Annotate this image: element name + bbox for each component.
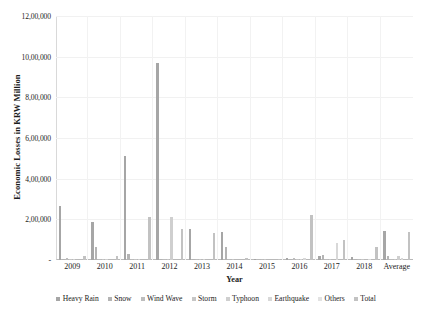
legend-label: Heavy Rain — [63, 294, 99, 303]
legend-label: Others — [325, 294, 345, 303]
bar — [102, 259, 104, 260]
bar-group — [251, 16, 283, 260]
bar — [69, 259, 71, 260]
bar — [228, 259, 230, 260]
bar-group — [218, 16, 250, 260]
bar — [300, 259, 302, 260]
bar — [397, 256, 399, 260]
bar — [289, 259, 291, 260]
y-axis-tick-label: 12,00,000 — [22, 12, 51, 21]
legend-swatch-icon — [226, 297, 230, 301]
legend-item-wind-wave[interactable]: Wind Wave — [141, 294, 183, 303]
bar — [98, 259, 100, 260]
bar — [354, 259, 356, 260]
legend-item-earthquake[interactable]: Earthquake — [268, 294, 309, 303]
bar — [351, 257, 353, 260]
bar-group — [186, 16, 218, 260]
bar — [148, 217, 150, 260]
legend-swatch-icon — [318, 297, 322, 301]
bar — [221, 232, 223, 260]
legend-item-storm[interactable]: Storm — [192, 294, 217, 303]
bar — [134, 259, 136, 260]
bar — [160, 259, 162, 260]
bar — [73, 259, 75, 260]
legend-swatch-icon — [108, 297, 112, 301]
y-axis-tick-label: 8,00,000 — [25, 93, 51, 102]
bar — [336, 243, 338, 260]
bar — [343, 240, 345, 260]
bar — [278, 259, 280, 260]
bar-groups — [56, 16, 413, 260]
bar — [213, 233, 215, 260]
legend-item-heavy-rain[interactable]: Heavy Rain — [56, 294, 99, 303]
bar — [170, 217, 172, 260]
bar — [325, 259, 327, 260]
bar — [131, 259, 133, 260]
bar — [310, 215, 312, 260]
bar-group — [283, 16, 315, 260]
bar — [387, 256, 389, 260]
legend-item-total[interactable]: Total — [354, 294, 376, 303]
bar — [167, 259, 169, 260]
legend-label: Earthquake — [274, 294, 309, 303]
bar — [225, 247, 227, 260]
bar — [261, 259, 263, 260]
chart-legend: Heavy RainSnowWind WaveStormTyphoonEarth… — [30, 294, 402, 303]
bar-group — [56, 16, 88, 260]
y-axis-tick-label: 10,00,000 — [22, 52, 51, 61]
bar — [383, 231, 385, 260]
bar — [303, 258, 305, 260]
y-axis-tick-label: - — [48, 256, 51, 265]
y-axis-title: Economic Losses in KRW Million — [12, 57, 22, 217]
bar — [66, 258, 68, 260]
bar-group — [153, 16, 185, 260]
x-axis-tick-label: Average — [381, 262, 413, 276]
bar — [95, 247, 97, 260]
legend-label: Typhoon — [232, 294, 259, 303]
bar — [127, 254, 129, 260]
bar — [163, 259, 165, 260]
x-axis-tick-label: 2018 — [348, 262, 380, 276]
bar — [245, 258, 247, 260]
bar — [156, 63, 158, 260]
bar — [203, 259, 205, 260]
bar — [181, 229, 183, 260]
bar — [59, 206, 61, 260]
bar — [105, 259, 107, 260]
bar — [116, 256, 118, 260]
bar-group — [88, 16, 120, 260]
bar — [199, 259, 201, 260]
bar-group — [121, 16, 153, 260]
x-axis-tick-label: 2010 — [88, 262, 120, 276]
bar — [368, 259, 370, 260]
bar — [91, 222, 93, 260]
legend-item-others[interactable]: Others — [318, 294, 345, 303]
legend-label: Wind Wave — [147, 294, 182, 303]
bar — [232, 259, 234, 260]
economic-losses-bar-chart: Economic Losses in KRW Million 12,00,000… — [0, 0, 423, 316]
bar — [408, 232, 410, 260]
y-axis-tick-label: 2,00,000 — [25, 215, 51, 224]
y-axis-tick-label: 6,00,000 — [25, 134, 51, 143]
plot-area: 12,00,00010,00,0008,00,0006,00,0004,00,0… — [56, 16, 413, 260]
legend-swatch-icon — [354, 297, 358, 301]
x-axis-tick-label: 2017 — [316, 262, 348, 276]
bar-group — [348, 16, 380, 260]
bar — [124, 156, 126, 260]
legend-item-snow[interactable]: Snow — [108, 294, 132, 303]
legend-swatch-icon — [56, 297, 60, 301]
x-axis-tick-label: 2016 — [283, 262, 315, 276]
legend-item-typhoon[interactable]: Typhoon — [226, 294, 259, 303]
bar — [296, 259, 298, 260]
bar — [293, 258, 295, 260]
y-axis-tick-label: 4,00,000 — [25, 174, 51, 183]
x-axis-tick-label: 2014 — [218, 262, 250, 276]
bar-group — [316, 16, 348, 260]
x-axis-tick-label: 2015 — [251, 262, 283, 276]
legend-label: Total — [360, 294, 376, 303]
x-axis-tick-label: 2012 — [153, 262, 185, 276]
bar — [189, 229, 191, 260]
x-axis-title: Year — [56, 275, 413, 284]
bar — [264, 259, 266, 260]
bar — [196, 259, 198, 260]
